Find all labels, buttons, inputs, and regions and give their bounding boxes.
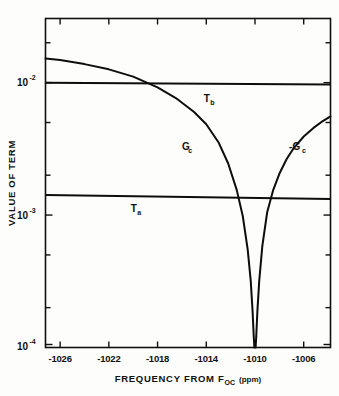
x-tick-label: -1010 — [243, 353, 266, 364]
svg-text:FREQUENCY FROM F: FREQUENCY FROM F — [115, 373, 225, 384]
x-tick-label: -1022 — [97, 353, 120, 364]
data-series-layer — [46, 59, 331, 348]
curve-label-g-c-subscript: c — [188, 147, 192, 154]
x-axis-ticks — [60, 19, 304, 348]
x-tick-label: -1006 — [292, 353, 315, 364]
y-tick-label: 10 — [17, 210, 29, 221]
y-tick-label-exponent: -4 — [30, 338, 36, 345]
curve-label-t-a-subscript: a — [137, 209, 141, 216]
series-t-a — [46, 195, 331, 199]
y-axis-ticks — [46, 83, 331, 345]
svg-text:OC: OC — [225, 379, 236, 386]
curve-label--g-c: -G — [289, 141, 300, 152]
chart-svg: -1026-1022-1018-1014-1010-1006 10-210-31… — [0, 0, 339, 396]
curve-label-t-b: T — [204, 93, 210, 104]
chart-figure: -1026-1022-1018-1014-1010-1006 10-210-31… — [0, 0, 339, 396]
x-axis-title: FREQUENCY FROM F OC (ppm) — [115, 373, 262, 386]
curve-label-t-b-subscript: b — [210, 99, 214, 106]
plot-frame — [46, 19, 331, 348]
curve-label-t-a: T — [131, 203, 137, 214]
series-t-b — [46, 83, 331, 85]
series-g-c — [46, 59, 255, 348]
y-tick-labels: 10-210-310-4 — [17, 74, 36, 352]
y-tick-label: 10 — [17, 77, 29, 88]
y-tick-label-exponent: -2 — [30, 74, 36, 81]
x-tick-label: -1026 — [48, 353, 71, 364]
y-axis-title: VALUE OF TERM — [6, 140, 17, 226]
y-tick-label-exponent: -3 — [30, 207, 36, 214]
x-tick-label: -1018 — [146, 353, 169, 364]
curve-label--g-c-subscript: c — [302, 147, 306, 154]
x-tick-label: -1014 — [195, 353, 219, 364]
y-tick-label: 10 — [17, 341, 29, 352]
svg-text:(ppm): (ppm) — [239, 375, 262, 384]
x-tick-labels: -1026-1022-1018-1014-1010-1006 — [48, 353, 315, 364]
